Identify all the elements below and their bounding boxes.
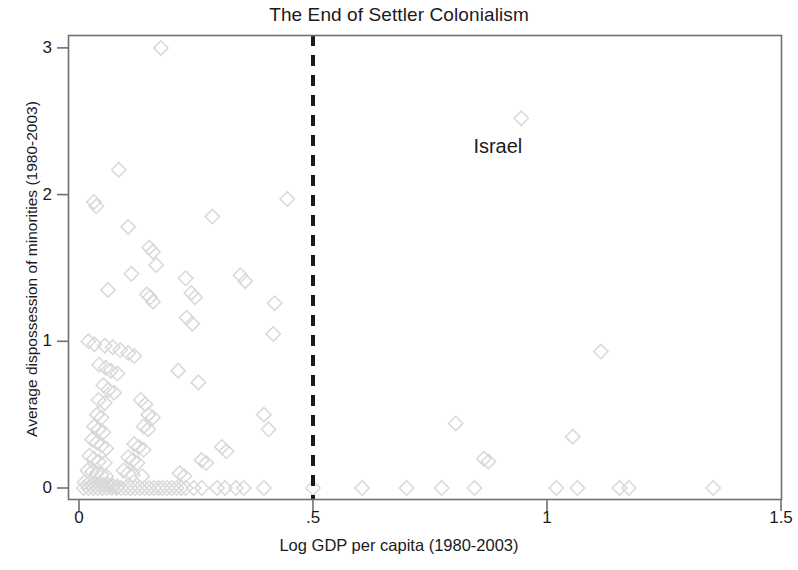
data-point [261,422,275,436]
data-point [169,481,183,495]
data-point [257,481,271,495]
axis-ticks-layer [57,48,781,511]
data-point [706,481,720,495]
data-point [179,271,193,285]
data-point [622,481,636,495]
plot-frame-layer [69,36,782,500]
x-axis-tick-label: 1 [542,508,551,528]
data-point [154,41,168,55]
data-point [449,416,463,430]
plot-canvas [0,0,798,570]
data-point [467,481,481,495]
data-point [570,481,584,495]
x-axis-tick-label: 0 [74,508,83,528]
data-point [123,481,137,495]
data-point [594,344,608,358]
data-point [566,429,580,443]
data-point [219,444,233,458]
x-axis-tick-label: .5 [306,508,320,528]
data-point [514,111,528,125]
data-point [280,192,294,206]
data-point [133,481,147,495]
data-point [191,375,205,389]
y-axis-tick-label: 3 [30,38,52,58]
data-point [171,363,185,377]
data-point [124,267,138,281]
y-axis-tick-label: 2 [30,185,52,205]
data-point [149,258,163,272]
plot-frame [69,36,782,500]
data-point [435,481,449,495]
x-axis-tick-label: 1.5 [769,508,793,528]
data-point [113,343,127,357]
data-point [128,481,142,495]
data-point [266,327,280,341]
data-point [215,440,229,454]
data-point [355,481,369,495]
data-point [267,296,281,310]
data-point [257,407,271,421]
data-point [399,481,413,495]
data-point [137,481,151,495]
data-point [549,481,563,495]
data-point [134,393,148,407]
data-points-layer [76,41,720,496]
data-point [101,283,115,297]
data-point [612,481,626,495]
data-point [205,209,219,223]
data-point [112,162,126,176]
scatter-plot-figure: The End of Settler Colonialism Average d… [0,0,798,570]
data-point [121,220,135,234]
y-axis-tick-label: 0 [30,478,52,498]
y-axis-tick-label: 1 [30,331,52,351]
annotation-israel: Israel [473,135,522,158]
